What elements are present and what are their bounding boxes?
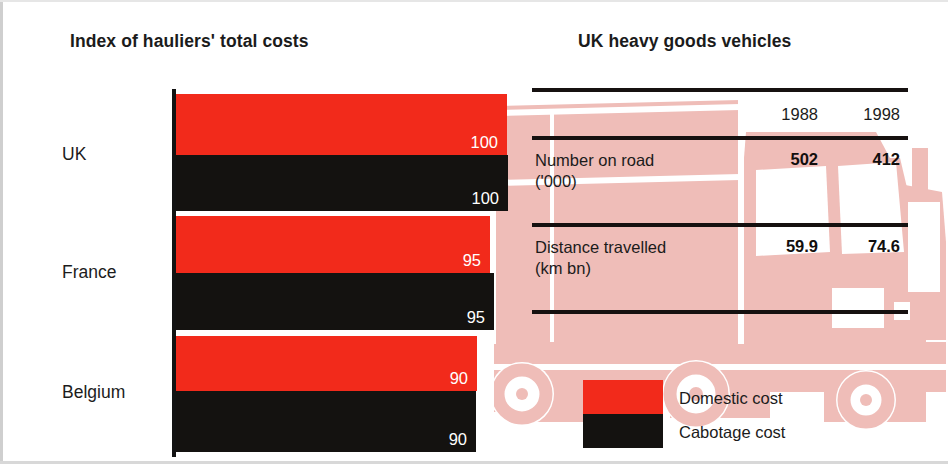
category-label-uk: UK (62, 144, 86, 165)
table-row-label-line2: (km bn) (535, 258, 666, 279)
table-column-header-1998: 1998 (842, 105, 900, 124)
table-row-label-line1: Distance travelled (535, 237, 666, 258)
table-cell-number-on-road-1988: 502 (750, 150, 818, 169)
table-column-header-1988: 1988 (760, 105, 818, 124)
table-row-label-line1: Number on road (535, 150, 654, 171)
right-panel-title: UK heavy goods vehicles (578, 31, 791, 52)
table-cell-number-on-road-1998: 412 (832, 150, 900, 169)
table-cell-distance-travelled-1988: 59.9 (750, 237, 818, 256)
bar-uk-cabotage[interactable]: 100 (176, 155, 508, 211)
infographic-page: Index of hauliers' total costs UK heavy … (0, 0, 948, 464)
bar-value-belgium-domestic: 90 (450, 370, 468, 387)
bar-value-uk-cabotage: 100 (471, 190, 499, 207)
legend-label-cabotage: Cabotage cost (679, 423, 785, 442)
table-row: Distance travelled (km bn) (535, 237, 666, 279)
uk-hgv-stats-table: 1988 1998 Number on road ('000) 502 412 … (532, 84, 908, 344)
category-label-belgium: Belgium (62, 382, 125, 403)
bar-value-uk-domestic: 100 (470, 134, 498, 151)
bar-uk-domestic[interactable]: 100 (176, 94, 507, 155)
hauliers-cost-bar-chart: UK 100 100 France 95 95 Belgium 90 90 (0, 0, 520, 464)
table-rule-middle (532, 223, 908, 227)
bar-belgium-domestic[interactable]: 90 (176, 336, 477, 391)
legend-label-domestic: Domestic cost (679, 389, 783, 408)
table-row-label-line2: ('000) (535, 171, 654, 192)
table-cell-distance-travelled-1998: 74.6 (832, 237, 900, 256)
chart-legend: Domestic cost Cabotage cost (583, 380, 913, 452)
bar-value-france-domestic: 95 (463, 252, 481, 269)
table-rule-top (532, 88, 908, 92)
bar-value-belgium-cabotage: 90 (449, 431, 467, 448)
table-row: Number on road ('000) (535, 150, 654, 192)
legend-swatch-cabotage (583, 414, 663, 448)
legend-swatch-domestic (583, 380, 663, 414)
table-rule-bottom (532, 310, 908, 314)
bar-value-france-cabotage: 95 (467, 309, 485, 326)
bar-belgium-cabotage[interactable]: 90 (176, 391, 476, 452)
table-rule-header (532, 136, 908, 140)
bar-france-domestic[interactable]: 95 (176, 216, 490, 273)
category-label-france: France (62, 262, 116, 283)
bar-france-cabotage[interactable]: 95 (176, 273, 494, 330)
